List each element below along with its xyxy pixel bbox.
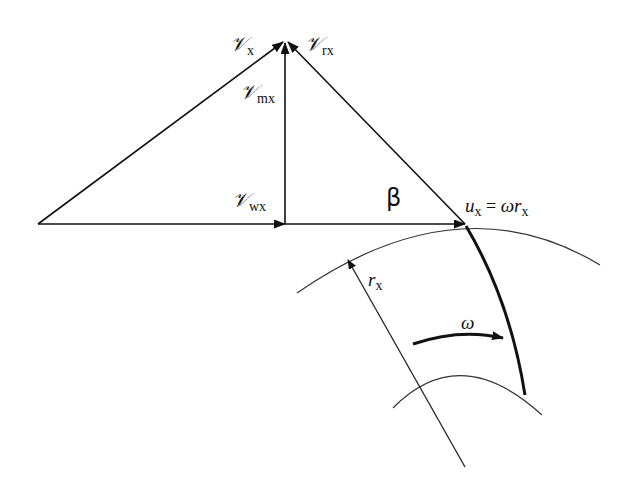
inner-radius-arc [393, 376, 542, 415]
label-beta: β [386, 186, 401, 210]
omega-arrow [413, 334, 503, 344]
subscript: x [247, 43, 254, 58]
subscript: x [521, 204, 528, 219]
radius-arrow [348, 260, 465, 467]
omega-symbol: ω [501, 195, 514, 216]
subscript: rx [322, 43, 334, 58]
subscript: x [375, 278, 382, 293]
label-v-x: 𝒱x [230, 34, 254, 54]
label-u-x: ux = ωrx [465, 196, 528, 215]
label-v-mx: 𝒱mx [240, 82, 275, 102]
outer-radius-arc [297, 229, 600, 293]
subscript: wx [249, 199, 266, 214]
subscript: x [475, 204, 482, 219]
label-v-rx: 𝒱rx [305, 34, 334, 54]
v-symbol: 𝒱 [240, 80, 257, 104]
label-omega: ω [461, 313, 474, 332]
blade-curve [466, 226, 525, 395]
subscript: mx [257, 91, 275, 106]
label-v-wx: 𝒱wx [232, 190, 266, 210]
v-symbol: 𝒱 [305, 32, 322, 56]
v-rx-vector [288, 42, 465, 224]
v-symbol: 𝒱 [232, 188, 249, 212]
equals-sign: = [482, 196, 501, 216]
v-symbol: 𝒱 [230, 32, 247, 56]
label-r-x: rx [368, 270, 382, 289]
velocity-triangle-diagram [0, 0, 628, 499]
u-symbol: u [465, 195, 475, 216]
